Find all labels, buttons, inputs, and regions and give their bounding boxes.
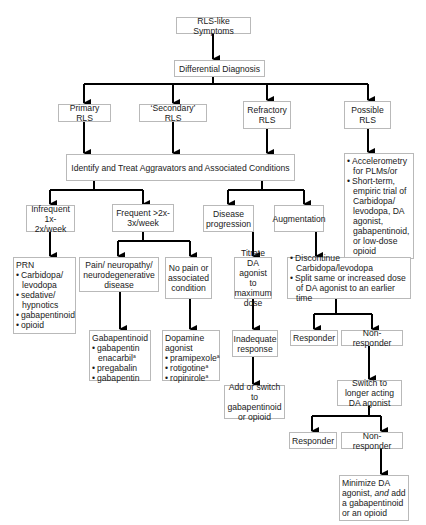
- node-label: Refractory RLS: [246, 105, 288, 125]
- node-differential-diagnosis: Differential Diagnosis: [174, 60, 265, 77]
- node-label: Augmentation: [272, 214, 325, 224]
- node-responder-1: Responder: [290, 330, 338, 346]
- node-titrate-da: Titrate DA agonist to maximum dose: [234, 257, 272, 299]
- list-item: Discontinue Carbidopa/levodopa: [290, 253, 408, 273]
- node-secondary-rls: ‘Secondary’ RLS: [139, 104, 207, 122]
- node-label: Pain/ neuropathy/ neurodegenerative dise…: [82, 260, 156, 290]
- node-possible-rls: Possible RLS: [344, 101, 391, 129]
- prn-list: Carbidopa/ levodopa sedative/ hypnotics …: [16, 270, 73, 330]
- node-disease-progression: Disease progression: [203, 205, 254, 232]
- possible-actions-list: Accelerometry for PLMs/or Short-term, em…: [347, 156, 411, 256]
- list-item: Accelerometry for PLMs/or: [347, 156, 411, 176]
- node-possible-actions: Accelerometry for PLMs/or Short-term, em…: [344, 153, 414, 259]
- list-item: opioid: [16, 320, 73, 330]
- prn-title: PRN: [16, 260, 73, 270]
- node-label: Non-responder: [344, 431, 400, 451]
- list-item: pregabalin: [92, 363, 148, 373]
- node-label: Add or switch to gabapentinoid or opioid: [227, 382, 282, 422]
- node-label: Identify and Treat Aggravators and Assoc…: [71, 163, 289, 173]
- gabapentinoid-list: gabapentin enacarbila pregabalin gabapen…: [92, 343, 148, 383]
- node-label: Non-responder: [344, 328, 400, 348]
- node-switch-longer-acting: Switch to longer acting DA agonist: [337, 380, 402, 406]
- list-item: Short-term, empiric trial of Carbidopa/ …: [347, 176, 411, 256]
- node-label: Minimize DA agonist, and add a gabapenti…: [342, 478, 406, 518]
- list-item: Split same or increased dose of DA agoni…: [290, 273, 408, 303]
- dopamine-title: Dopamine agonist: [165, 333, 217, 353]
- node-label: Disease progression: [206, 209, 251, 229]
- node-add-or-switch: Add or switch to gabapentinoid or opioid: [224, 385, 285, 419]
- node-discontinue: Discontinue Carbidopa/levodopa Split sam…: [287, 257, 411, 299]
- node-label: Switch to longer acting DA agonist: [340, 378, 399, 408]
- node-identify-aggravators: Identify and Treat Aggravators and Assoc…: [66, 154, 295, 181]
- node-label: Inadequate response: [234, 334, 277, 354]
- list-item: pramipexolea: [165, 353, 217, 363]
- node-inadequate-response: Inadequate response: [232, 330, 278, 357]
- dopamine-list: pramipexolea rotigotinea ropinirolea: [165, 353, 217, 383]
- node-responder-2: Responder: [289, 432, 337, 449]
- node-no-pain: No pain or associated condition: [165, 257, 212, 299]
- node-label: Possible RLS: [347, 105, 388, 125]
- node-dopamine-agonist: Dopamine agonist pramipexolea rotigotine…: [162, 330, 220, 381]
- node-non-responder-2: Non-responder: [341, 432, 403, 449]
- node-label: No pain or associated condition: [168, 263, 209, 293]
- node-rls-like-symptoms: RLS-like Symptoms: [176, 17, 251, 34]
- discontinue-list: Discontinue Carbidopa/levodopa Split sam…: [290, 253, 408, 303]
- node-prn: PRN Carbidopa/ levodopa sedative/ hypnot…: [13, 257, 76, 334]
- node-non-responder-1: Non-responder: [341, 330, 403, 346]
- list-item: rotigotinea: [165, 363, 217, 373]
- list-item: gabapentin enacarbila: [92, 343, 148, 363]
- node-label: Responder: [292, 436, 334, 446]
- node-augmentation: Augmentation: [274, 205, 324, 232]
- list-item: gabapentinoid: [16, 310, 73, 320]
- node-gabapentinoid: Gabapentinoid gabapentin enacarbila preg…: [89, 330, 151, 381]
- gabapentinoid-title: Gabapentinoid: [92, 333, 148, 343]
- node-refractory-rls: Refractory RLS: [243, 101, 291, 129]
- node-label: RLS-like Symptoms: [179, 16, 248, 36]
- node-label: ‘Secondary’ RLS: [142, 103, 204, 123]
- node-infrequent: Infrequent 1x-2x/week: [26, 205, 75, 232]
- node-minimize-da: Minimize DA agonist, and add a gabapenti…: [339, 475, 409, 521]
- node-label: Differential Diagnosis: [179, 64, 260, 74]
- list-item: gabapentin: [92, 373, 148, 383]
- node-pain-neuropathy: Pain/ neuropathy/ neurodegenerative dise…: [79, 257, 159, 292]
- list-item: ropinirolea: [165, 373, 217, 383]
- node-frequent: Frequent >2x-3x/week: [112, 204, 174, 232]
- list-item: Carbidopa/ levodopa: [16, 270, 73, 290]
- node-label: Primary RLS: [61, 103, 108, 123]
- node-label: Infrequent 1x-2x/week: [29, 204, 72, 234]
- node-label: Frequent >2x-3x/week: [115, 208, 171, 228]
- node-label: Responder: [293, 333, 335, 343]
- node-primary-rls: Primary RLS: [58, 104, 111, 122]
- list-item: sedative/ hypnotics: [16, 290, 73, 310]
- node-label: Titrate DA agonist to maximum dose: [234, 248, 271, 308]
